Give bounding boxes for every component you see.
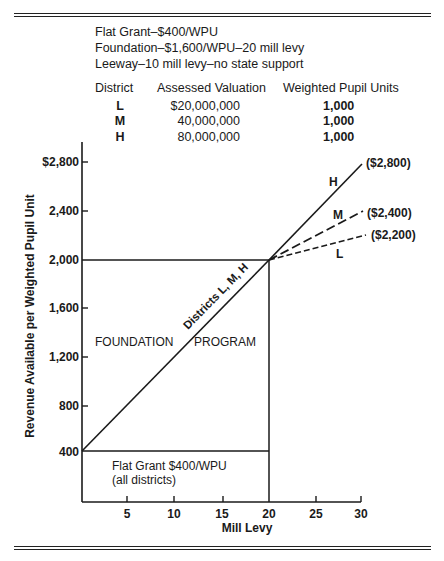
svg-text:1,200: 1,200 (49, 350, 79, 364)
revenue-chart: $2,800 2,400 2,000 1,600 1,200 800 400 5… (0, 0, 444, 561)
svg-text:25: 25 (309, 507, 323, 521)
end-label-l: ($2,200) (371, 228, 416, 242)
svg-text:800: 800 (59, 399, 79, 413)
series-m-line (269, 211, 363, 260)
annotation-program: PROGRAM (194, 335, 256, 349)
series-h-line (269, 164, 362, 260)
svg-text:15: 15 (215, 507, 229, 521)
annotation-all-districts: (all districts) (112, 473, 176, 487)
svg-text:10: 10 (167, 507, 181, 521)
label-m: M (333, 208, 343, 222)
svg-text:5: 5 (124, 507, 131, 521)
bottom-double-rule (14, 546, 431, 550)
svg-text:30: 30 (354, 507, 368, 521)
y-tick-labels: $2,800 2,400 2,000 1,600 1,200 800 400 (42, 155, 79, 459)
svg-text:1,600: 1,600 (49, 301, 79, 315)
x-ticks (127, 496, 361, 502)
annotation-flat-grant: Flat Grant $400/WPU (112, 459, 227, 473)
svg-text:2,000: 2,000 (49, 253, 79, 267)
svg-text:20: 20 (262, 507, 276, 521)
y-ticks (82, 162, 88, 406)
x-tick-labels: 5 10 15 20 25 30 (124, 507, 368, 521)
series-l-line (269, 235, 366, 260)
x-axis-title: Mill Levy (222, 521, 273, 535)
label-h: H (329, 175, 338, 189)
annotation-foundation: FOUNDATION (95, 335, 173, 349)
svg-text:2,400: 2,400 (49, 204, 79, 218)
svg-text:$2,800: $2,800 (42, 155, 79, 169)
end-label-m: ($2,400) (367, 206, 412, 220)
series-foundation-line (82, 260, 269, 451)
label-l: L (336, 247, 343, 261)
svg-text:400: 400 (59, 445, 79, 459)
end-label-h: ($2,800) (366, 156, 411, 170)
annotation-districts-diagonal: Districts L, M, H (181, 261, 250, 331)
